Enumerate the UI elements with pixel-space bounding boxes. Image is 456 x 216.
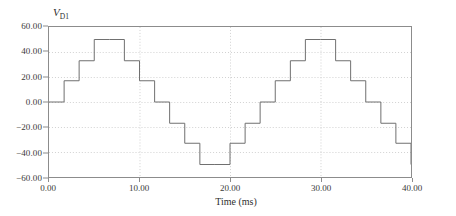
- x-tick-mark: [230, 178, 231, 182]
- x-tick-mark: [321, 178, 322, 182]
- series-label-main: V: [53, 6, 60, 18]
- x-tick-label: 40.00: [402, 183, 422, 193]
- x-tick-label: 20.00: [220, 183, 240, 193]
- chart-figure: VD1 −60.00−40.00−20.000.0020.0040.0060.0…: [0, 0, 456, 216]
- series-label-subscript: D1: [60, 12, 70, 21]
- y-tick-label: 20.00: [21, 72, 42, 82]
- x-axis-label: Time (ms): [0, 196, 456, 207]
- plot-area: [48, 26, 412, 178]
- y-tick-label: 60.00: [21, 21, 42, 31]
- x-tick-label: 30.00: [311, 183, 331, 193]
- x-tick-mark: [412, 178, 413, 182]
- x-tick-mark: [139, 178, 140, 182]
- y-tick-label: −20.00: [16, 122, 42, 132]
- y-tick-label: 0.00: [26, 97, 42, 107]
- series-label: VD1: [53, 6, 69, 21]
- waveform-curve: [49, 27, 411, 177]
- x-tick-label: 10.00: [129, 183, 149, 193]
- y-tick-label: −60.00: [16, 173, 42, 183]
- y-tick-label: −40.00: [16, 148, 42, 158]
- y-tick-label: 40.00: [21, 46, 42, 56]
- x-tick-label: 0.00: [40, 183, 56, 193]
- x-axis-label-text: Time (ms): [215, 196, 257, 207]
- y-axis: −60.00−40.00−20.000.0020.0040.0060.00: [0, 26, 48, 178]
- x-tick-mark: [48, 178, 49, 182]
